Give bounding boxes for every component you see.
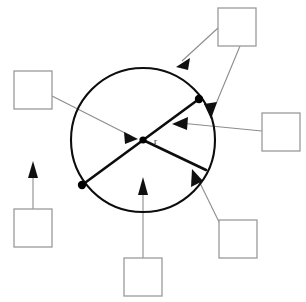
leader-line-circumference — [182, 28, 218, 61]
answer-box-sector[interactable] — [14, 209, 52, 247]
answer-box-radius[interactable] — [14, 71, 52, 109]
answer-box-chord[interactable] — [124, 258, 162, 296]
leader-arrowhead-radius — [124, 132, 138, 144]
leader-arrowhead-diameter — [172, 117, 188, 130]
chord-segment — [143, 140, 206, 170]
upper-right-point — [195, 95, 203, 103]
leader-arrowhead-chord — [138, 177, 148, 195]
circle-labeling-diagram: r — [0, 0, 306, 302]
radius-label: r — [154, 136, 157, 146]
leader-line-arc — [199, 181, 221, 226]
leader-arrowhead-sector — [28, 161, 38, 178]
lower-left-point — [78, 181, 86, 189]
leader-line-radius — [52, 96, 131, 136]
leader-line-point-on-circle — [213, 46, 240, 111]
answer-box-arc[interactable] — [219, 220, 257, 258]
answer-box-circumference[interactable] — [218, 8, 256, 46]
leader-line-diameter — [180, 123, 262, 131]
center-point — [139, 136, 146, 143]
answer-box-diameter[interactable] — [262, 113, 300, 151]
diagram-canvas: r — [0, 0, 306, 302]
answer-box-group — [14, 8, 300, 296]
